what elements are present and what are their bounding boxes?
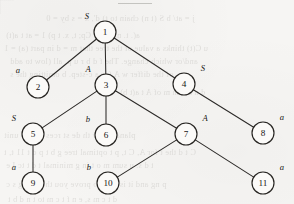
tree-node-10[interactable]: 10b bbox=[87, 162, 119, 194]
tree-edge-7-10 bbox=[117, 140, 176, 177]
node-number-10: 10 bbox=[103, 178, 113, 188]
node-tag-8: a bbox=[280, 112, 284, 122]
node-tag-10: b bbox=[87, 162, 92, 172]
tree-node-4[interactable]: 4S bbox=[173, 63, 206, 95]
node-tag-4: S bbox=[201, 63, 206, 73]
node-number-2: 2 bbox=[36, 82, 41, 92]
tree-node-8[interactable]: 8a bbox=[252, 112, 284, 144]
node-tag-6: b bbox=[86, 114, 91, 124]
node-number-8: 8 bbox=[261, 128, 266, 138]
node-tag-3: A bbox=[84, 64, 91, 74]
node-number-7: 7 bbox=[184, 129, 189, 139]
nodes-group: 1S2a3A4S5S6b7A8a9a10b11a bbox=[12, 11, 284, 194]
tree-node-7[interactable]: 7A bbox=[175, 113, 208, 145]
tree-node-6[interactable]: 6b bbox=[86, 114, 117, 146]
node-number-9: 9 bbox=[31, 178, 36, 188]
node-number-4: 4 bbox=[182, 79, 187, 89]
node-number-6: 6 bbox=[104, 130, 109, 140]
tree-node-9[interactable]: 9a bbox=[12, 162, 44, 194]
tree-node-2[interactable]: 2a bbox=[16, 65, 49, 98]
node-tag-11: a bbox=[280, 162, 284, 172]
node-number-3: 3 bbox=[104, 80, 109, 90]
edges-group bbox=[33, 38, 254, 177]
tree-node-1[interactable]: 1S bbox=[85, 11, 116, 43]
tree-node-5[interactable]: 5S bbox=[12, 113, 44, 145]
tree-edge-1-4 bbox=[114, 38, 175, 78]
node-number-11: 11 bbox=[259, 178, 268, 188]
node-tag-2: a bbox=[16, 65, 20, 75]
tree-edge-1-3 bbox=[105, 43, 106, 74]
node-tag-7: A bbox=[201, 113, 208, 123]
node-number-1: 1 bbox=[103, 27, 108, 37]
node-number-5: 5 bbox=[31, 129, 36, 139]
tree-node-3[interactable]: 3A bbox=[84, 64, 117, 96]
node-tag-5: S bbox=[12, 113, 17, 123]
tree-edge-7-11 bbox=[195, 140, 253, 177]
node-tag-1: S bbox=[85, 11, 90, 21]
tree-graph: 1S2a3A4S5S6b7A8a9a10b11a bbox=[0, 0, 294, 204]
figure-canvas: j = at/ b S (t n) chain to t) d', x = s … bbox=[0, 0, 294, 204]
tree-edge-3-7 bbox=[115, 91, 176, 129]
node-tag-9: a bbox=[12, 162, 16, 172]
tree-node-11[interactable]: 11a bbox=[252, 162, 284, 194]
